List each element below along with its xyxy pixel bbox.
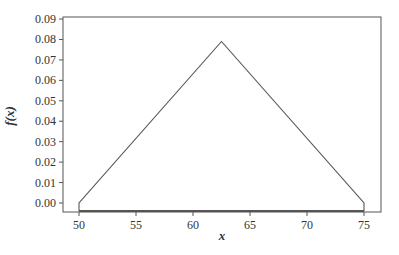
- y-axis-label: f(x): [2, 106, 17, 126]
- x-tick-label: 50: [73, 218, 85, 232]
- y-tick-label: 0.01: [35, 176, 56, 190]
- y-tick-label: 0.03: [35, 135, 56, 149]
- y-tick-label: 0.04: [35, 114, 56, 128]
- x-tick-label: 65: [244, 218, 256, 232]
- y-tick-label: 0.05: [35, 94, 56, 108]
- plot-frame: [63, 17, 381, 212]
- x-axis-label: x: [218, 228, 226, 243]
- y-tick-label: 0.08: [35, 32, 56, 46]
- triangular-density-chart: 0.000.010.020.030.040.050.060.070.080.09…: [0, 0, 399, 255]
- x-tick-label: 75: [358, 218, 370, 232]
- x-tick-label: 55: [130, 218, 142, 232]
- x-tick-label: 70: [301, 218, 313, 232]
- y-tick-label: 0.09: [35, 12, 56, 26]
- y-tick-label: 0.07: [35, 53, 56, 67]
- density-curve: [79, 42, 364, 212]
- y-tick-label: 0.00: [35, 196, 56, 210]
- x-tick-label: 60: [187, 218, 199, 232]
- y-tick-label: 0.06: [35, 73, 56, 87]
- y-axis-ticks: 0.000.010.020.030.040.050.060.070.080.09: [35, 12, 63, 210]
- y-tick-label: 0.02: [35, 155, 56, 169]
